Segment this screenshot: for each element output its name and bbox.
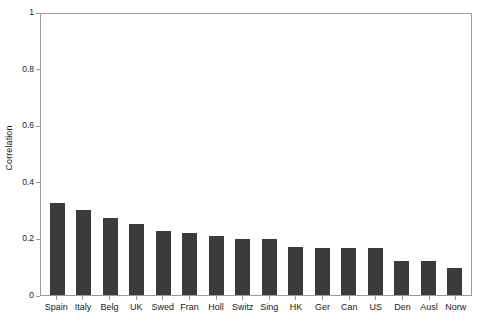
y-axis-title-text: Correlation xyxy=(4,125,14,170)
x-axis-tick-mark xyxy=(162,296,163,300)
x-axis-tick xyxy=(363,296,390,300)
x-axis-tick xyxy=(416,296,443,300)
x-axis-tick xyxy=(336,296,363,300)
y-axis-tick-label: 0.4 xyxy=(22,177,34,188)
x-axis-tick-label: Ausl xyxy=(416,301,443,313)
x-axis-tick xyxy=(442,296,469,300)
x-axis-tick-label: Holl xyxy=(203,301,230,313)
y-axis-tick-label: 0 xyxy=(29,290,34,301)
bar-slot xyxy=(230,14,257,295)
x-axis-tick-label: Den xyxy=(389,301,416,313)
x-axis-tick-mark xyxy=(136,296,137,300)
x-axis-tick-mark xyxy=(56,296,57,300)
bar xyxy=(394,261,409,295)
x-axis-tick-mark xyxy=(269,296,270,300)
bar-slot xyxy=(415,14,442,295)
x-axis-tick xyxy=(96,296,123,300)
x-axis-tick-label: Fran xyxy=(176,301,203,313)
x-axis-tick xyxy=(203,296,230,300)
x-axis-tick-mark xyxy=(295,296,296,300)
bar-slot xyxy=(71,14,98,295)
bar-series xyxy=(41,14,471,295)
bar xyxy=(341,248,356,295)
y-axis-tick-label: 0.2 xyxy=(22,233,34,244)
x-axis-tick-label: Switz xyxy=(229,301,256,313)
x-axis-tick-mark xyxy=(82,296,83,300)
bar xyxy=(76,210,91,295)
x-axis-tick xyxy=(123,296,150,300)
bar-slot xyxy=(336,14,363,295)
x-axis-tick-mark xyxy=(349,296,350,300)
bar-slot xyxy=(283,14,310,295)
bar-slot xyxy=(389,14,416,295)
bar xyxy=(182,233,197,295)
bar xyxy=(50,203,65,295)
x-axis-tick-mark xyxy=(402,296,403,300)
bar-slot xyxy=(309,14,336,295)
x-axis-tick-mark xyxy=(429,296,430,300)
x-axis-tick-mark xyxy=(109,296,110,300)
bar xyxy=(447,268,462,295)
x-axis-tick-label: Sing xyxy=(256,301,283,313)
bar-slot xyxy=(442,14,469,295)
bar xyxy=(156,231,171,295)
x-axis-tick xyxy=(256,296,283,300)
x-axis-tick xyxy=(283,296,310,300)
y-axis-tick-label: 0.8 xyxy=(22,64,34,75)
x-axis-tick-label: Ger xyxy=(309,301,336,313)
x-axis-tick-label: US xyxy=(363,301,390,313)
bar xyxy=(209,236,224,295)
bar-chart-figure: Correlation 00.20.40.60.81 SpainItalyBel… xyxy=(0,0,484,327)
bar xyxy=(103,218,118,295)
y-axis-tick-label: 1 xyxy=(29,7,34,18)
x-axis-tick xyxy=(389,296,416,300)
bar-slot xyxy=(256,14,283,295)
bar xyxy=(421,261,436,295)
bar-slot xyxy=(44,14,71,295)
x-axis-tick-label: Norw xyxy=(442,301,469,313)
plot-area xyxy=(40,13,472,296)
x-axis-tick-label: HK xyxy=(283,301,310,313)
x-axis-tick xyxy=(176,296,203,300)
bar xyxy=(368,248,383,295)
bar-slot xyxy=(203,14,230,295)
x-axis-tick-label: Belg xyxy=(96,301,123,313)
x-axis-tick-labels: SpainItalyBelgUKSwedFranHollSwitzSingHKG… xyxy=(40,301,472,313)
x-axis-tick xyxy=(70,296,97,300)
bar-slot xyxy=(362,14,389,295)
y-axis-title: Correlation xyxy=(2,0,16,296)
bar xyxy=(235,239,250,295)
x-axis-tick-label: Italy xyxy=(70,301,97,313)
x-axis-tick xyxy=(309,296,336,300)
x-axis-tick-label: UK xyxy=(123,301,150,313)
x-axis-tick xyxy=(150,296,177,300)
x-axis-tick-mark xyxy=(216,296,217,300)
bar xyxy=(262,239,277,295)
x-axis-tick-label: Can xyxy=(336,301,363,313)
bar-slot xyxy=(97,14,124,295)
bar-slot xyxy=(124,14,151,295)
x-axis: SpainItalyBelgUKSwedFranHollSwitzSingHKG… xyxy=(40,296,472,327)
bar xyxy=(288,247,303,295)
x-axis-tick-label: Spain xyxy=(43,301,70,313)
bar xyxy=(315,248,330,295)
x-axis-tick-label: Swed xyxy=(150,301,177,313)
x-axis-tick-mark xyxy=(242,296,243,300)
y-axis-tick-label: 0.6 xyxy=(22,120,34,131)
x-axis-tick-mark xyxy=(322,296,323,300)
bar-slot xyxy=(177,14,204,295)
x-axis-tick xyxy=(229,296,256,300)
bar-slot xyxy=(150,14,177,295)
bar xyxy=(129,224,144,295)
x-axis-tick-mark xyxy=(189,296,190,300)
x-axis-tick-mark xyxy=(375,296,376,300)
x-axis-tick-marks xyxy=(40,296,472,300)
x-axis-tick-mark xyxy=(455,296,456,300)
x-axis-tick xyxy=(43,296,70,300)
